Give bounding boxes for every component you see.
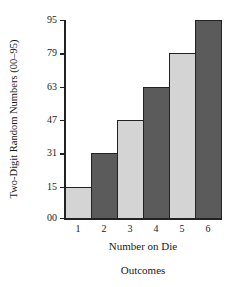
y-tick-label: 00 — [47, 213, 57, 223]
y-tick-label: 47 — [47, 115, 57, 125]
y-tick-label: 31 — [47, 148, 57, 158]
x-axis-label: Number on Die — [109, 240, 177, 252]
x-tick-label: 6 — [206, 223, 211, 234]
y-tick-mark — [60, 218, 65, 219]
y-tick-mark — [60, 87, 65, 88]
bar-4 — [143, 87, 170, 218]
x-tick-label: 1 — [76, 223, 81, 234]
y-tick-label: 79 — [47, 48, 57, 58]
y-tick-mark — [60, 53, 65, 54]
chart-subtitle: Outcomes — [121, 264, 166, 276]
y-tick-mark — [60, 120, 65, 121]
y-axis-label: Two-Digit Random Numbers (00–95) — [8, 40, 19, 199]
bar-1 — [65, 187, 92, 218]
bar-3 — [117, 120, 144, 218]
bar-5 — [169, 53, 196, 218]
x-tick-label: 2 — [102, 223, 107, 234]
y-tick-mark — [60, 153, 65, 154]
x-tick-label: 4 — [154, 223, 159, 234]
bar-6 — [195, 20, 222, 218]
y-tick-label: 63 — [47, 82, 57, 92]
x-axis-line — [64, 218, 222, 220]
x-tick-label: 3 — [128, 223, 133, 234]
y-tick-label: 95 — [47, 15, 57, 25]
bar-2 — [91, 153, 118, 218]
x-tick-label: 5 — [180, 223, 185, 234]
bar-chart: Two-Digit Random Numbers (00–95) 0015314… — [0, 0, 233, 287]
y-tick-label: 15 — [47, 182, 57, 192]
y-tick-mark — [60, 20, 65, 21]
